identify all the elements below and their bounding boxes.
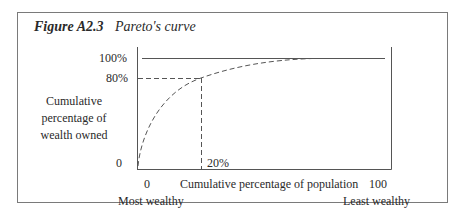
chart-plot [0,0,462,223]
pareto-curve [138,59,312,167]
